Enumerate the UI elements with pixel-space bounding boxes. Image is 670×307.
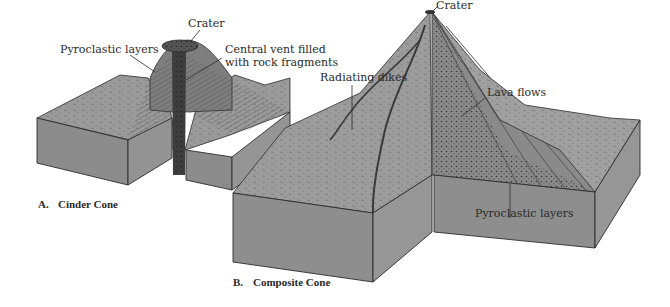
label-a-central-vent-line1: Central vent filled [225,44,326,56]
label-a-pyroclastic-layers: Pyroclastic layers [60,44,159,56]
label-a-central-vent-line2: with rock fragments [225,57,338,69]
label-a-crater: Crater [188,18,224,30]
caption-b-title: Composite Cone [253,276,330,288]
label-b-radiating-dikes: Radiating dikes [320,72,407,84]
label-b-pyroclastic-layers: Pyroclastic layers [475,208,574,220]
caption-a-letter: A. [38,198,58,210]
label-b-crater-top: Crater [436,0,472,12]
caption-a-title: Cinder Cone [58,198,118,210]
caption-a: A.Cinder Cone [38,198,118,210]
caption-b-letter: B. [233,276,253,288]
caption-b: B.Composite Cone [233,276,330,288]
label-b-lava-flows: Lava flows [487,87,546,99]
